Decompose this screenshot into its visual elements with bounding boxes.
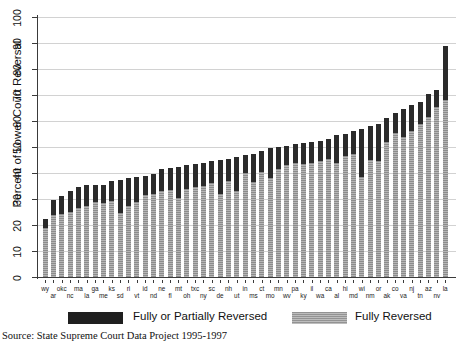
x-tick-label: or [370,285,386,292]
x-tick-mark [78,280,79,283]
bar-segment-fully-reversed [209,183,214,277]
bar [384,118,389,277]
x-tick-label: hi [337,285,353,292]
y-tick-label: 60 [11,107,23,137]
x-tick-mark [312,280,313,283]
x-tick-mark [420,280,421,283]
bar [393,113,398,277]
x-tick-mark [195,280,196,283]
x-tick-mark [245,280,246,283]
y-tick-label: 0 [11,263,23,293]
bar [443,46,448,277]
legend-label-fully-or-partially-reversed: Fully or Partially Reversed [133,310,267,322]
bar-segment-fully-reversed [243,173,248,277]
x-tick-label: okc [54,285,70,292]
bar [434,90,439,277]
bar [101,185,106,277]
bar-segment-fully-reversed [318,161,323,277]
x-tick-mark [178,280,179,283]
bar [376,124,381,277]
bar [418,102,423,278]
x-tick-label: nc [62,292,78,299]
bar-segment-fully-reversed [268,178,273,277]
x-tick-label: wy [37,285,53,292]
y-tick-label-wrap: 0 [2,272,32,282]
bar [268,148,273,277]
x-tick-label: ri [120,285,136,292]
x-tick-label: la [79,292,95,299]
x-tick-label: nv [429,292,445,299]
y-tick-label: 70 [11,81,23,111]
bar [243,155,248,277]
bar-segment-fully-reversed [109,201,114,277]
bar-segment-fully-reversed [351,154,356,278]
bar-segment-fully-reversed [259,172,264,277]
bar [251,154,256,278]
x-tick-mark [137,280,138,283]
chart-figure: Percent of Lower Court Reversal 01020304… [0,0,459,342]
bar-segment-fully-reversed [443,100,448,277]
x-tick-label: tn [412,292,428,299]
y-tick-label-wrap: 20 [2,220,32,230]
bar [234,157,239,277]
bar-segment-fully-reversed [184,189,189,277]
bar-segment-fully-reversed [93,202,98,277]
x-tick-mark [220,280,221,283]
bar [59,196,64,277]
x-tick-label: id [137,285,153,292]
x-tick-mark [112,280,113,283]
x-tick-mark [103,280,104,283]
x-tick-mark [170,280,171,283]
bar [176,167,181,277]
bar-segment-fully-reversed [376,161,381,277]
x-tick-label: il [304,285,320,292]
bar [226,159,231,277]
x-tick-label: vt [129,292,145,299]
bar [293,144,298,277]
x-tick-mark [120,280,121,283]
x-tick-mark [95,280,96,283]
bar-segment-fully-reversed [284,165,289,277]
bar-segment-fully-reversed [159,191,164,277]
x-tick-mark [62,280,63,283]
bar [109,181,114,277]
bar [68,191,73,277]
x-tick-label: mo [262,292,278,299]
x-tick-mark [45,280,46,283]
x-tick-mark [370,280,371,283]
y-tick-label: 30 [11,185,23,215]
bar-segment-fully-reversed [201,186,206,277]
bar-segment-fully-reversed [251,182,256,277]
bar-segment-fully-reversed [118,213,123,277]
bar-series-container [38,17,456,277]
bar [359,129,364,277]
bar-segment-fully-reversed [309,163,314,277]
bar-segment-fully-reversed [151,194,156,277]
x-tick-label: ak [379,292,395,299]
y-tick-label: 10 [11,237,23,267]
bar-segment-fully-reversed [234,191,239,277]
bar [284,146,289,277]
x-tick-label: de [212,292,228,299]
bar-segment-fully-reversed [368,160,373,277]
y-tick-label-wrap: 40 [2,168,32,178]
x-tick-label: sd [112,292,128,299]
bar [184,165,189,277]
bar [159,169,164,277]
x-tick-label: ar [45,292,61,299]
x-tick-label: nm [362,292,378,299]
x-tick-label: nj [404,285,420,292]
x-tick-mark [378,280,379,283]
legend-swatch-fully-or-partially-reversed [68,312,123,324]
x-tick-label: ct [254,285,270,292]
bar-segment-fully-reversed [101,203,106,277]
bar-segment-fully-reversed [334,163,339,277]
x-tick-label: az [420,285,436,292]
x-tick-label: mn [270,285,286,292]
bar [134,177,139,277]
bar-segment-fully-reversed [43,228,48,277]
x-tick-label: md [345,292,361,299]
bar-segment-fully-reversed [293,163,298,277]
x-tick-label: al [329,292,345,299]
bar-segment-fully-reversed [226,181,231,277]
